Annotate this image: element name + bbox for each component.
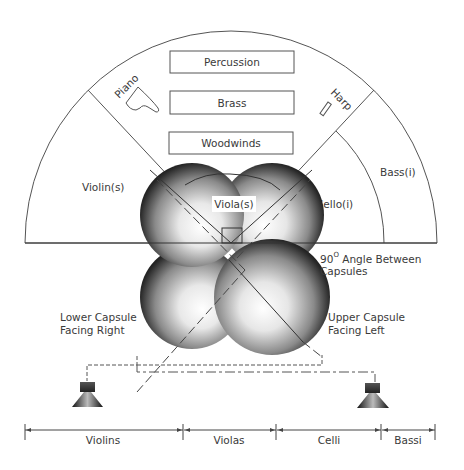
svg-text:90O Angle Between: 90O Angle Between	[320, 251, 421, 265]
harp-icon	[320, 102, 331, 116]
svg-text:Capsules: Capsules	[320, 265, 367, 277]
annotation-upper-capsule: Upper Capsule Facing Left	[328, 311, 405, 336]
capsule-top-left	[140, 163, 244, 267]
orchestra-mic-diagram: Percussion Brass Woodwinds Piano Harp Vi…	[0, 0, 464, 470]
piano-icon	[126, 87, 159, 112]
svg-text:Upper Capsule: Upper Capsule	[328, 311, 405, 323]
section-woodwinds: Woodwinds	[169, 132, 293, 154]
harp-label: Harp	[329, 86, 356, 113]
svg-text:Piano: Piano	[112, 72, 141, 101]
section-brass: Brass	[170, 91, 294, 114]
label-violas: Viola(s)	[212, 196, 256, 212]
annotation-angle: 90O Angle Between Capsules	[320, 251, 421, 277]
piano-label: Piano	[112, 72, 141, 101]
svg-text:Harp: Harp	[329, 86, 356, 113]
dim-label-violins: Violins	[86, 434, 120, 446]
annotation-lower-capsule: Lower Capsule Facing Right	[60, 311, 137, 336]
svg-text:Woodwinds: Woodwinds	[201, 137, 261, 149]
label-basses: Bass(i)	[380, 166, 416, 178]
dim-label-violas: Violas	[213, 434, 244, 446]
svg-text:Percussion: Percussion	[204, 56, 260, 68]
dim-label-bassi: Bassi	[394, 434, 422, 446]
dim-label-celli: Celli	[318, 434, 341, 446]
svg-text:Facing Right: Facing Right	[60, 324, 125, 336]
left-speaker-icon	[72, 382, 103, 407]
label-violins: Violin(s)	[82, 181, 124, 193]
signal-cables	[87, 355, 375, 382]
svg-text:Brass: Brass	[218, 97, 247, 109]
section-percussion: Percussion	[170, 51, 294, 73]
right-speaker-icon	[357, 383, 389, 408]
svg-text:Lower Capsule: Lower Capsule	[60, 311, 137, 323]
svg-text:Facing Left: Facing Left	[328, 324, 385, 336]
svg-text:Viola(s): Viola(s)	[214, 198, 253, 210]
